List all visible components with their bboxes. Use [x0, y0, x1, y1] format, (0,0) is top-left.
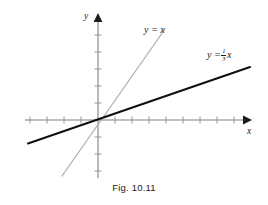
fraction-one-third: 13: [221, 48, 226, 63]
figure-container: y x y = x y =13x Fig. 10.11: [0, 0, 268, 205]
fraction-numerator: 1: [221, 48, 226, 55]
figure-caption: Fig. 10.11: [0, 182, 268, 193]
y-axis-arrowhead: [94, 13, 103, 22]
fraction-denominator: 3: [221, 56, 226, 63]
line-label-y-equals-one-third-x: y =13x: [207, 48, 231, 63]
x-axis-group: [25, 116, 252, 125]
y-axis-group: [94, 13, 103, 178]
line-y-equals-one-third-x: [28, 67, 250, 144]
x-axis-arrowhead: [243, 116, 252, 125]
x-axis-label: x: [247, 127, 251, 137]
coordinate-plot: [0, 0, 268, 205]
line-label-third-lhs: y =: [207, 49, 221, 60]
line-label-third-variable: x: [227, 49, 231, 60]
line-label-y-equals-x: y = x: [144, 25, 165, 35]
y-axis-label: y: [84, 12, 88, 22]
